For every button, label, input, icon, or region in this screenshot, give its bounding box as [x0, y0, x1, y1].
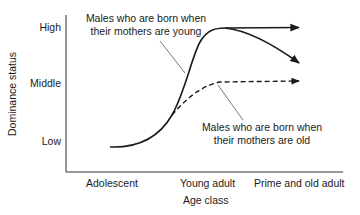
series-young-mothers-decline-arrow	[225, 28, 299, 63]
annotation-old-line2: their mothers are old	[192, 134, 332, 147]
annotation-young-line1: Males who are born when	[76, 12, 216, 25]
y-axis-label: Dominance status	[6, 52, 18, 136]
y-tick-high: High	[11, 21, 61, 33]
x-tick-prime-old-adult: Prime and old adult	[254, 177, 344, 189]
annotation-young-pointer	[160, 41, 185, 73]
y-tick-middle: Middle	[11, 77, 61, 89]
x-axis-label: Age class	[183, 194, 229, 206]
annotation-young: Males who are born when their mothers ar…	[76, 12, 216, 37]
series-young-mothers-maintained-arrow	[225, 28, 299, 29]
x-tick-young-adult: Young adult	[180, 177, 235, 189]
annotation-old-pointer	[218, 85, 243, 120]
annotation-old: Males who are born when their mothers ar…	[192, 121, 332, 146]
annotation-old-line1: Males who are born when	[192, 121, 332, 134]
annotation-young-line2: their mothers are young	[76, 25, 216, 38]
x-tick-adolescent: Adolescent	[86, 177, 138, 189]
y-tick-low: Low	[11, 135, 61, 147]
